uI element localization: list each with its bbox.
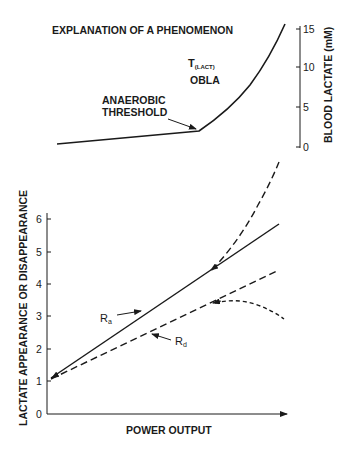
rd-pointer-arrow bbox=[152, 334, 171, 340]
ra-pointer-arrow bbox=[117, 311, 141, 315]
top-ytick-label-10: 10 bbox=[303, 61, 315, 73]
figure-canvas: EXPLANATION OF A PHENOMENON T(LACT) OBLA… bbox=[0, 0, 350, 451]
bottom-ytick-label-1: 1 bbox=[36, 375, 42, 387]
top-chart-title: EXPLANATION OF A PHENOMENON bbox=[52, 24, 233, 36]
bottom-chart: 6 5 4 3 2 1 0 Ra Rd LACTATE APPEARANCE O… bbox=[17, 162, 287, 436]
obla-label: OBLA bbox=[190, 74, 220, 86]
bottom-ytick-label-5: 5 bbox=[36, 246, 42, 258]
rd-declining-curve bbox=[215, 301, 284, 319]
rd-label: Rd bbox=[175, 335, 187, 348]
top-chart: EXPLANATION OF A PHENOMENON T(LACT) OBLA… bbox=[52, 23, 334, 153]
top-ytick-label-15: 15 bbox=[303, 23, 315, 35]
bottom-ytick-label-4: 4 bbox=[36, 278, 42, 290]
ra-branch-arrow bbox=[211, 265, 218, 270]
anaerobic-threshold-label-line2: THRESHOLD bbox=[102, 106, 168, 118]
blood-lactate-curve bbox=[57, 24, 285, 144]
bottom-ytick-label-6: 6 bbox=[36, 213, 42, 225]
top-ytick-label-0: 0 bbox=[303, 141, 309, 153]
top-ytick-label-5: 5 bbox=[303, 101, 309, 113]
bottom-ytick-label-2: 2 bbox=[36, 343, 42, 355]
top-y-axis-label: BLOOD LACTATE (mM) bbox=[322, 27, 334, 143]
bottom-x-axis-label: POWER OUTPUT bbox=[126, 424, 212, 436]
rd-line bbox=[51, 270, 279, 379]
t-lact-label: T(LACT) bbox=[188, 57, 215, 70]
ra-accelerating-curve bbox=[212, 162, 279, 270]
bottom-ytick-label-3: 3 bbox=[36, 310, 42, 322]
bottom-ytick-label-0: 0 bbox=[36, 408, 42, 420]
ra-label: Ra bbox=[100, 312, 112, 325]
anaerobic-threshold-arrow bbox=[168, 119, 196, 129]
anaerobic-threshold-label-line1: ANAEROBIC bbox=[102, 94, 166, 106]
bottom-y-axis-label: LACTATE APPEARANCE OR DISAPPEARANCE bbox=[17, 190, 29, 426]
